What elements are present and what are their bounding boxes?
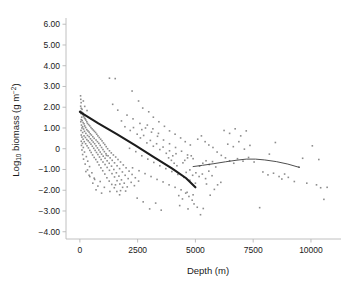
data-point	[242, 160, 244, 162]
data-point	[112, 104, 114, 106]
data-point	[80, 95, 82, 97]
data-point	[98, 164, 100, 166]
data-point	[196, 206, 198, 208]
data-point	[114, 78, 116, 80]
x-tick-label: 0	[77, 245, 82, 255]
data-point	[142, 201, 144, 203]
data-point	[158, 121, 160, 123]
data-point	[248, 157, 250, 159]
data-point	[197, 138, 199, 140]
data-point	[284, 173, 286, 175]
data-point	[138, 170, 140, 172]
data-point	[323, 199, 325, 201]
y-axis-title-tail: )	[10, 83, 21, 86]
data-point	[83, 123, 85, 125]
data-point	[320, 187, 322, 189]
data-point	[84, 131, 86, 133]
data-point	[99, 151, 101, 153]
data-point	[262, 171, 264, 173]
data-point	[90, 143, 92, 145]
data-point	[269, 153, 271, 155]
data-point	[85, 137, 87, 139]
data-point	[201, 135, 203, 137]
data-point	[88, 147, 90, 149]
data-point	[93, 157, 95, 159]
data-point	[253, 161, 255, 163]
data-point	[193, 203, 195, 205]
data-point	[116, 180, 118, 182]
data-point	[90, 138, 92, 140]
data-point	[80, 121, 82, 123]
data-point	[80, 140, 82, 142]
data-point	[125, 190, 127, 192]
data-point	[212, 147, 214, 149]
data-point	[143, 135, 145, 137]
data-point	[238, 141, 240, 143]
data-point	[105, 153, 107, 155]
data-point	[102, 161, 104, 163]
data-point	[214, 189, 216, 191]
data-point	[85, 143, 87, 145]
data-point	[96, 133, 98, 135]
data-point	[204, 141, 206, 143]
data-point	[95, 132, 97, 134]
data-point	[205, 178, 207, 180]
data-point	[100, 138, 102, 140]
data-point	[107, 148, 109, 150]
data-point	[83, 100, 85, 102]
data-point	[114, 162, 116, 164]
data-point	[83, 135, 85, 137]
data-point	[306, 182, 308, 184]
data-point	[97, 135, 99, 137]
data-point	[114, 176, 116, 178]
data-point	[192, 194, 194, 196]
data-point	[104, 173, 106, 175]
data-point	[200, 214, 202, 216]
data-point	[101, 192, 103, 194]
data-point	[138, 180, 140, 182]
y-tick-label: −2.00	[38, 185, 60, 195]
data-point	[124, 126, 126, 128]
data-point	[80, 99, 82, 101]
data-point	[83, 141, 85, 143]
data-point	[185, 172, 187, 174]
data-point	[92, 154, 94, 156]
data-point	[81, 136, 83, 138]
data-point	[205, 160, 207, 162]
data-point	[187, 208, 189, 210]
data-point	[109, 191, 111, 193]
data-point	[95, 159, 97, 161]
data-point	[114, 187, 116, 189]
data-point	[318, 159, 320, 161]
data-point	[94, 150, 96, 152]
data-point	[108, 162, 110, 164]
data-point	[111, 160, 113, 162]
data-point	[100, 167, 102, 169]
data-point	[100, 159, 102, 161]
data-point	[130, 182, 132, 184]
data-point	[123, 164, 125, 166]
data-point	[185, 192, 187, 194]
data-point	[152, 128, 154, 130]
data-point	[86, 121, 88, 123]
plot-canvas: −4.00−3.00−2.00−1.0001.002.003.004.005.0…	[0, 0, 351, 283]
data-point	[84, 125, 86, 127]
data-point	[153, 116, 155, 118]
data-point	[190, 144, 192, 146]
data-point	[86, 145, 88, 147]
data-point	[160, 209, 162, 211]
data-point	[233, 162, 235, 164]
data-point	[92, 182, 94, 184]
data-point	[106, 167, 108, 169]
data-point	[92, 141, 94, 143]
data-point	[159, 149, 161, 151]
data-point	[111, 165, 113, 167]
data-point	[113, 154, 115, 156]
data-point	[156, 179, 158, 181]
data-point	[191, 199, 193, 201]
data-point	[102, 170, 104, 172]
data-point	[156, 143, 158, 145]
data-point	[80, 105, 82, 107]
data-point	[229, 133, 231, 135]
data-point	[108, 180, 110, 182]
